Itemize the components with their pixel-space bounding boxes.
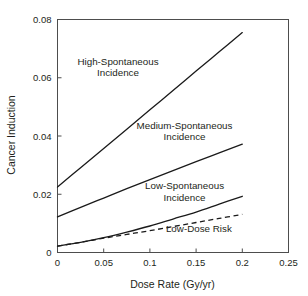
x-axis-title: Dose Rate (Gy/yr) (130, 278, 215, 290)
x-tick-label: 0.1 (143, 257, 156, 268)
x-tick-label: 0.25 (279, 257, 298, 268)
annotation-line: Incidence (164, 192, 206, 203)
y-tick-label: 0 (46, 247, 51, 258)
chart-figure: 00.050.10.150.20.25 00.020.040.060.08 Do… (0, 0, 308, 296)
y-tick-label: 0.06 (33, 72, 52, 83)
annotation-line: Incidence (97, 67, 139, 78)
cancer-induction-line-chart: 00.050.10.150.20.25 00.020.040.060.08 Do… (0, 0, 308, 296)
annotation-line: Low-Dose Risk (166, 223, 232, 234)
y-axis-title: Cancer Induction (5, 95, 17, 175)
annotation-line: Incidence (164, 131, 206, 142)
x-tick-label: 0 (55, 257, 60, 268)
annotation-line: High-Spontaneous (77, 56, 158, 67)
y-tick-label: 0.02 (33, 189, 52, 200)
annotation-lowdose: Low-Dose Risk (166, 223, 232, 234)
x-tick-label: 0.2 (236, 257, 249, 268)
x-tick-label: 0.15 (187, 257, 206, 268)
y-tick-label: 0.04 (33, 131, 52, 142)
y-tick-label: 0.08 (33, 14, 52, 25)
x-tick-label: 0.05 (94, 257, 113, 268)
annotation-line: Low-Spontaneous (145, 180, 224, 191)
annotation-line: Medium-Spontaneous (137, 120, 233, 131)
